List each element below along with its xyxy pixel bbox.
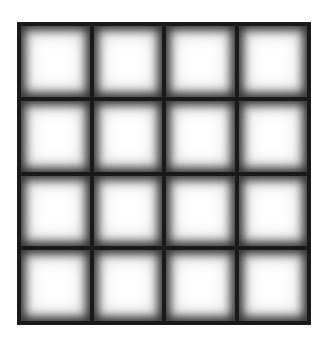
canvas xyxy=(0,0,326,342)
grid-cell-r2-c4 xyxy=(239,101,308,172)
grid-cell-r1-c2 xyxy=(94,26,163,97)
grid-cell-r1-c4 xyxy=(239,26,308,97)
grid-cell-r1-c3 xyxy=(166,26,235,97)
grid-cell-r3-c2 xyxy=(94,176,163,247)
grid-cell-r4-c2 xyxy=(94,250,163,321)
grid-cell-r2-c3 xyxy=(166,101,235,172)
grid-cell-r4-c4 xyxy=(239,250,308,321)
grid-cell-r1-c1 xyxy=(21,26,90,97)
grid-cell-r2-c2 xyxy=(94,101,163,172)
grid-cell-r3-c3 xyxy=(166,176,235,247)
grid-4x4 xyxy=(17,22,311,325)
grid-cell-r4-c3 xyxy=(166,250,235,321)
grid-cell-r2-c1 xyxy=(21,101,90,172)
grid-cell-r4-c1 xyxy=(21,250,90,321)
grid-cell-r3-c4 xyxy=(239,176,308,247)
grid-cell-r3-c1 xyxy=(21,176,90,247)
